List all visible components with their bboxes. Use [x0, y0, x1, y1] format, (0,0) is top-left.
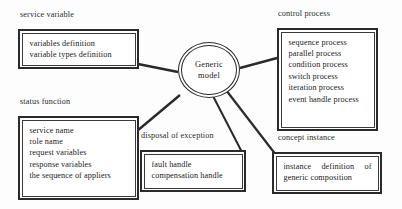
center-node-label-line2: model — [198, 71, 220, 80]
box-status-function: service name role name request variables… — [18, 116, 139, 200]
list-disposal-of-exception: fault handle compensation handle — [152, 159, 236, 182]
list-concept-instance: instance definition of generic compositi… — [284, 161, 372, 184]
list-item: instance definition of — [284, 161, 372, 172]
list-item: request variables — [30, 147, 129, 158]
list-item: role name — [30, 136, 129, 147]
list-item: condition process — [289, 59, 368, 70]
center-node-generic-model: Generic model — [178, 42, 240, 98]
box-disposal-of-exception: fault handle compensation handle — [140, 150, 246, 192]
list-item: compensation handle — [152, 170, 236, 181]
list-control-process: sequence process parallel process condit… — [289, 37, 368, 105]
generic-model-diagram: service variable variables definition va… — [0, 0, 402, 209]
list-item: fault handle — [152, 159, 236, 170]
list-item: variables definition — [30, 38, 129, 49]
list-status-function: service name role name request variables… — [30, 125, 129, 182]
list-item: parallel process — [289, 48, 368, 59]
edge-center-to-control-process — [240, 58, 277, 68]
box-concept-instance: instance definition of generic compositi… — [272, 152, 382, 194]
list-item: variable types definition — [30, 49, 129, 60]
list-item: sequence process — [289, 37, 368, 48]
caption-disposal-of-exception: disposal of exception — [141, 131, 214, 141]
caption-status-function: status function — [20, 97, 70, 107]
edge-center-to-status-function — [137, 95, 180, 131]
list-item: response variables — [30, 159, 129, 170]
box-service-variable: variables definition variable types defi… — [18, 29, 139, 69]
list-service-variable: variables definition variable types defi… — [30, 38, 129, 61]
center-node-label-line1: Generic — [195, 60, 223, 69]
center-node-label: Generic model — [195, 59, 223, 82]
box-control-process: sequence process parallel process condit… — [277, 28, 378, 131]
list-item: the sequence of appliers — [30, 170, 129, 181]
caption-control-process: control process — [278, 9, 330, 19]
list-item: switch process — [289, 71, 368, 82]
list-item: event handle process — [289, 94, 368, 105]
list-item: generic composition — [284, 172, 372, 183]
caption-concept-instance: concept instance — [278, 133, 335, 143]
edge-center-to-service-variable — [138, 64, 178, 72]
edge-center-to-concept-instance — [226, 90, 276, 155]
caption-service-variable: service variable — [20, 10, 74, 20]
list-item: service name — [30, 125, 129, 136]
edge-center-to-disposal-of-exception — [213, 96, 245, 158]
list-item: iteration process — [289, 82, 368, 93]
